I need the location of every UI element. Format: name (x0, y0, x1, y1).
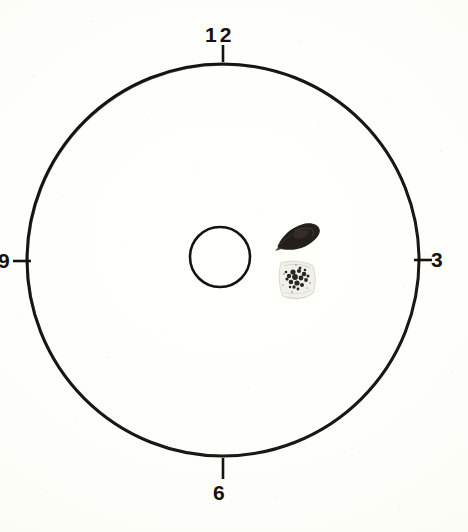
clock-label-6: 6 (213, 482, 225, 503)
clock-label-3: 3 (431, 249, 443, 270)
inner-circle (190, 227, 250, 287)
clock-face-diagram (0, 0, 468, 532)
clock-label-12: 12 (205, 24, 234, 45)
outer-circle-overdraw (28, 65, 419, 456)
mark-speckled-patch (279, 261, 315, 298)
clock-label-9: 9 (0, 250, 10, 271)
diagram-canvas: 12 3 6 9 (0, 0, 468, 532)
outer-circle (27, 64, 419, 456)
mark-dark-blob (270, 220, 323, 256)
